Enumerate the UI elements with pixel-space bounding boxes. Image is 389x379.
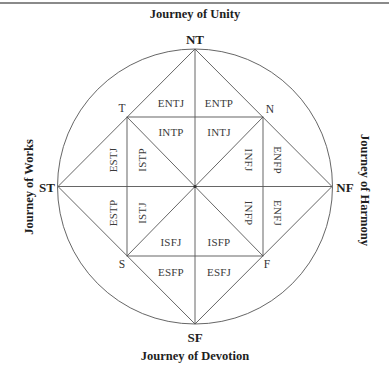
pole-nf-label: NF — [336, 181, 353, 194]
type-istj: ISTJ — [137, 202, 148, 224]
type-entp: ENTP — [205, 98, 233, 109]
pole-st-label: ST — [39, 181, 55, 194]
type-istp: ISTP — [137, 148, 148, 171]
type-isfp: ISFP — [208, 237, 231, 248]
journey-works-label: Journey of Works — [23, 139, 36, 235]
journey-unity-label: Journey of Unity — [150, 8, 240, 21]
corner-s-label: S — [119, 259, 125, 271]
type-estp: ESTP — [108, 200, 119, 226]
type-esfp: ESFP — [158, 267, 184, 278]
type-infp: INFP — [243, 201, 254, 226]
type-entj: ENTJ — [158, 98, 184, 109]
type-esfj: ESFJ — [207, 267, 231, 278]
typology-diagram — [0, 0, 389, 379]
type-infj: INFJ — [243, 149, 254, 172]
pole-sf-label: SF — [187, 331, 202, 344]
center-point — [193, 185, 196, 188]
journey-devotion-label: Journey of Devotion — [141, 350, 249, 363]
corner-f-label: F — [264, 259, 270, 271]
type-isfj: ISFJ — [161, 237, 182, 248]
pole-nt-label: NT — [186, 33, 204, 46]
type-enfp: ENFP — [272, 146, 283, 174]
journey-harmony-label: Journey of Harmony — [359, 134, 372, 246]
type-enfj: ENFJ — [272, 200, 283, 226]
corner-t-label: T — [118, 103, 125, 115]
type-intp: INTP — [158, 127, 183, 138]
corner-n-label: N — [266, 104, 274, 116]
type-estj: ESTJ — [108, 148, 119, 173]
type-intj: INTJ — [207, 127, 230, 138]
